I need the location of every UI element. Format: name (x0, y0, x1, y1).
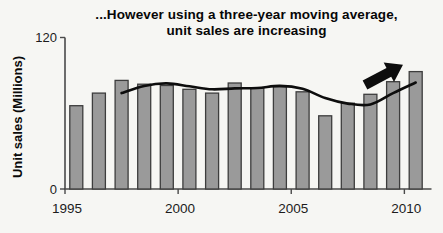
bar-2000 (183, 89, 196, 189)
x-tick-label: 2010 (391, 201, 421, 216)
x-tick-label: 2000 (165, 201, 195, 216)
y-tick-label: 120 (35, 30, 57, 45)
bar-1995 (70, 106, 83, 189)
bar-1998 (138, 84, 151, 189)
x-tick-label: 2005 (278, 201, 308, 216)
x-tick-label: 1995 (52, 201, 82, 216)
bar-chart-plot: 12001995200020052010 (0, 0, 443, 233)
bar-2007 (341, 103, 354, 189)
bar-2003 (251, 88, 264, 189)
bar-2008 (364, 94, 377, 189)
bar-1996 (92, 93, 105, 189)
y-tick-label: 0 (50, 182, 57, 197)
bar-2002 (228, 83, 241, 189)
bar-2009 (387, 82, 400, 189)
bar-1999 (160, 86, 173, 190)
bar-2005 (296, 92, 309, 189)
bar-1997 (115, 80, 128, 189)
bar-2006 (319, 116, 332, 189)
bar-2010 (409, 72, 422, 189)
bar-2001 (206, 93, 219, 189)
chart-figure: ...However using a three-year moving ave… (0, 0, 443, 233)
bar-2004 (273, 87, 286, 189)
